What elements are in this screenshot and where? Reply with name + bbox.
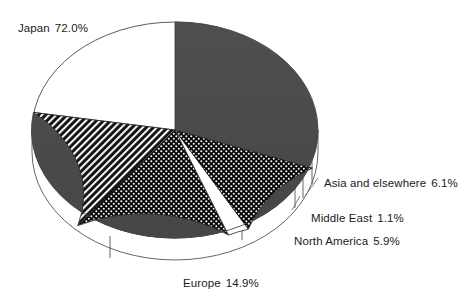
slice-label-japan: Japan72.0% xyxy=(18,22,88,35)
slice-label-north-america: North America5.9% xyxy=(294,235,400,248)
slice-label-middle-east-name: Middle East xyxy=(311,212,372,224)
slice-label-europe: Europe14.9% xyxy=(183,277,259,290)
slice-label-asia-value: 6.1% xyxy=(431,177,458,189)
slice-label-middle-east: Middle East1.1% xyxy=(311,212,404,225)
pie-chart-graphic xyxy=(0,0,469,297)
slice-label-asia-name: Asia and elsewhere xyxy=(324,177,426,189)
pie-slices xyxy=(31,22,318,238)
slice-label-japan-name: Japan xyxy=(18,22,50,34)
slice-label-europe-name: Europe xyxy=(183,277,221,289)
pie-chart: Japan72.0% Asia and elsewhere6.1% Middle… xyxy=(0,0,469,297)
slice-label-japan-value: 72.0% xyxy=(55,22,88,34)
slice-label-north-america-value: 5.9% xyxy=(373,235,400,247)
slice-label-asia: Asia and elsewhere6.1% xyxy=(324,177,458,190)
slice-label-north-america-name: North America xyxy=(294,235,368,247)
slice-label-europe-value: 14.9% xyxy=(226,277,259,289)
slice-label-middle-east-value: 1.1% xyxy=(377,212,404,224)
